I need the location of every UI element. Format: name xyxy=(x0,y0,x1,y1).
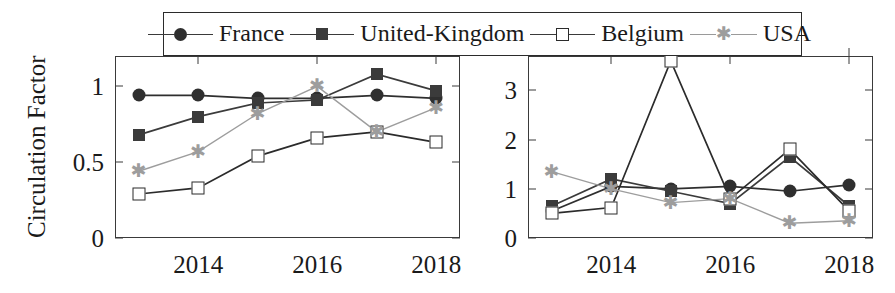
left-x-tick-label: 2014 xyxy=(173,238,223,277)
left-y-tick-mark xyxy=(115,86,123,87)
left-x-tick-label: 2018 xyxy=(411,238,461,277)
series-line-belgium xyxy=(139,132,436,194)
data-point-united-kingdom-2017 xyxy=(371,68,383,80)
legend-item-united-kingdom: United-Kingdom xyxy=(290,21,530,48)
right-y-tick-label: 2 xyxy=(505,127,529,152)
left-y-tick-mark-right xyxy=(452,238,460,239)
data-point-usa-2016: ✱ xyxy=(309,79,324,94)
data-point-belgium-2015 xyxy=(251,150,264,163)
legend-line-belgium-right xyxy=(569,34,595,35)
open-square-icon xyxy=(556,28,569,41)
right-y-tick-mark xyxy=(528,139,536,140)
legend-line-usa-right xyxy=(731,34,757,35)
legend-label-united-kingdom: United-Kingdom xyxy=(354,21,530,48)
legend-item-france: France xyxy=(148,21,290,48)
right-x-tick-label: 2018 xyxy=(824,238,874,277)
left-y-tick-label: 1 xyxy=(92,74,116,99)
data-point-usa-2014: ✱ xyxy=(190,144,205,159)
data-point-france-2017 xyxy=(783,185,796,198)
data-point-france-2018 xyxy=(843,178,856,191)
legend-line-usa xyxy=(690,34,716,35)
right-y-tick-mark xyxy=(528,238,536,239)
right-y-tick-mark-right xyxy=(865,139,873,140)
left-y-tick-mark xyxy=(115,162,123,163)
right-y-tick-mark xyxy=(528,90,536,91)
left-series-lines xyxy=(115,56,460,238)
right-y-tick-mark xyxy=(528,188,536,189)
data-point-belgium-2013 xyxy=(132,188,145,201)
left-chart-panel: Circulation Factor ✱✱✱✱✱✱00.512014201620… xyxy=(115,56,460,238)
left-y-tick-mark-right xyxy=(452,162,460,163)
data-point-belgium-2013 xyxy=(545,207,558,220)
data-point-usa-2016: ✱ xyxy=(722,191,737,206)
data-point-belgium-2018 xyxy=(430,136,443,149)
right-y-tick-label: 0 xyxy=(505,226,529,251)
data-point-usa-2017: ✱ xyxy=(782,216,797,231)
legend-label-belgium: Belgium xyxy=(595,21,690,48)
legend-label-usa: USA xyxy=(757,21,817,48)
right-plot-area: ✱✱✱✱✱✱0123201420162018 xyxy=(528,56,873,238)
legend-line-france xyxy=(148,34,174,35)
right-y-tick-label: 3 xyxy=(505,78,529,103)
figure-two-panel-line-chart: France United-Kingdom Belgium ✱ USA Circ… xyxy=(0,0,895,293)
data-point-france-2013 xyxy=(132,89,145,102)
right-x-tick-mark xyxy=(730,56,731,64)
data-point-belgium-2016 xyxy=(311,131,324,144)
data-point-usa-2018: ✱ xyxy=(841,213,856,228)
right-chart-panel: ✱✱✱✱✱✱0123201420162018 xyxy=(528,56,873,238)
data-point-usa-2015: ✱ xyxy=(250,106,265,121)
left-y-axis-label: Circulation Factor xyxy=(23,56,49,238)
data-point-france-2017 xyxy=(370,89,383,102)
legend-line-belgium xyxy=(530,34,556,35)
left-x-tick-mark xyxy=(198,56,199,64)
left-y-tick-mark xyxy=(115,238,123,239)
legend-label-france: France xyxy=(213,21,290,48)
right-x-tick-label: 2016 xyxy=(705,238,755,277)
left-y-tick-mark-right xyxy=(452,86,460,87)
left-y-tick-label: 0.5 xyxy=(73,150,115,175)
filled-circle-icon xyxy=(174,28,187,41)
right-x-tick-mark xyxy=(611,56,612,64)
data-point-usa-2014: ✱ xyxy=(603,181,618,196)
data-point-belgium-2014 xyxy=(605,201,618,214)
data-point-usa-2013: ✱ xyxy=(131,164,146,179)
left-x-tick-mark xyxy=(436,56,437,64)
data-point-united-kingdom-2014 xyxy=(192,111,204,123)
legend-line-france-right xyxy=(187,34,213,35)
data-point-usa-2015: ✱ xyxy=(663,195,678,210)
right-y-tick-mark-right xyxy=(865,238,873,239)
left-plot-area: ✱✱✱✱✱✱00.51201420162018 xyxy=(115,56,460,238)
right-series-lines xyxy=(528,56,873,238)
left-y-tick-label: 0 xyxy=(92,226,116,251)
left-x-tick-mark xyxy=(317,56,318,64)
series-line-france xyxy=(139,95,436,98)
data-point-usa-2013: ✱ xyxy=(544,164,559,179)
data-point-france-2014 xyxy=(192,89,205,102)
data-point-belgium-2014 xyxy=(192,181,205,194)
chart-legend: France United-Kingdom Belgium ✱ USA xyxy=(163,12,802,56)
right-x-tick-mark xyxy=(849,56,850,64)
right-y-tick-label: 1 xyxy=(505,176,529,201)
star-asterisk-icon: ✱ xyxy=(716,27,731,42)
right-x-tick-label: 2014 xyxy=(586,238,636,277)
right-y-tick-mark-right xyxy=(865,188,873,189)
filled-square-icon xyxy=(316,28,328,40)
legend-line-uk-right xyxy=(328,34,354,35)
right-x-tick-mark-top xyxy=(849,48,850,56)
legend-line-uk xyxy=(290,34,316,35)
left-x-tick-label: 2016 xyxy=(292,238,342,277)
data-point-usa-2017: ✱ xyxy=(369,124,384,139)
legend-item-usa: ✱ USA xyxy=(690,21,817,48)
legend-item-belgium: Belgium xyxy=(530,21,690,48)
data-point-belgium-2017 xyxy=(783,143,796,156)
right-y-tick-mark-right xyxy=(865,90,873,91)
series-line-belgium xyxy=(552,61,849,213)
data-point-usa-2018: ✱ xyxy=(428,100,443,115)
data-point-united-kingdom-2013 xyxy=(133,129,145,141)
data-point-belgium-2015 xyxy=(664,54,677,67)
